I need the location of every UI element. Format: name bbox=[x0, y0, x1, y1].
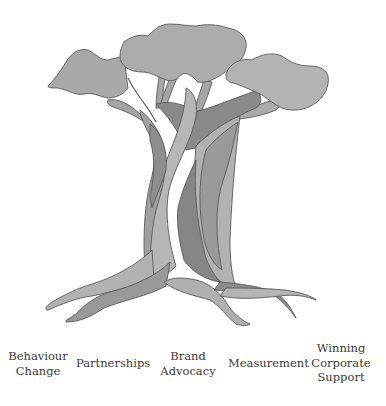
label-behaviour-change: Behaviour Change bbox=[6, 349, 70, 378]
canopy-left bbox=[48, 50, 128, 99]
label-partnerships: Partnerships bbox=[76, 356, 146, 371]
root-right bbox=[220, 288, 316, 300]
label-brand-advocacy: Brand Advocacy bbox=[160, 349, 216, 378]
label-measurement: Measurement bbox=[228, 356, 308, 371]
tree-illustration bbox=[0, 0, 386, 330]
label-winning-corporate-support: Winning Corporate Support bbox=[308, 341, 374, 385]
